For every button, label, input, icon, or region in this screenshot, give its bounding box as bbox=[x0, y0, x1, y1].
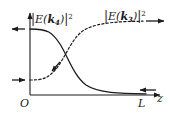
arrow-down-left-icon bbox=[52, 62, 60, 71]
length-label: L bbox=[138, 98, 145, 109]
solid-label-E: E bbox=[35, 13, 43, 26]
origin-label: O bbox=[20, 98, 29, 109]
solid-label-exponent: 2 bbox=[68, 13, 72, 21]
solid-intensity-curve bbox=[30, 29, 146, 94]
dashed-label-exponent: 2 bbox=[141, 10, 145, 18]
solid-curve-label: |E(k4)|2 bbox=[31, 13, 73, 26]
dashed-label-E: E bbox=[108, 10, 116, 23]
dashed-intensity-curve bbox=[30, 21, 143, 80]
x-axis-label: z bbox=[157, 93, 163, 104]
solid-label-k: k bbox=[47, 13, 55, 26]
figure-container: |E(k4)|2 |E(k3)|2 O L z bbox=[0, 0, 170, 122]
dashed-label-k: k bbox=[120, 10, 128, 23]
dashed-curve-label: |E(k3)|2 bbox=[104, 10, 146, 23]
